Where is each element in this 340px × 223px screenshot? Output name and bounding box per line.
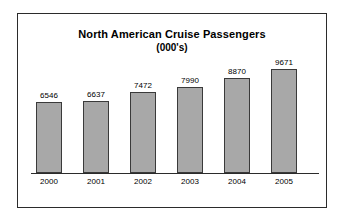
plot-area: 6546 2000 6637 2001 7472 2002 7990 2003 … <box>18 14 326 207</box>
bar-category-label: 2005 <box>275 177 293 186</box>
bar-value-label: 6637 <box>87 90 105 99</box>
bar-category-label: 2001 <box>87 177 105 186</box>
bar-value-label: 7990 <box>181 76 199 85</box>
bar-value-label: 8870 <box>228 67 246 76</box>
bar-category-label: 2004 <box>228 177 246 186</box>
bar-rect[interactable] <box>177 87 203 173</box>
bar-rect[interactable] <box>271 69 297 173</box>
bar-group[interactable]: 9671 2005 <box>271 69 297 173</box>
bar-rect[interactable] <box>83 101 109 173</box>
x-axis-line <box>31 173 319 175</box>
bar-value-label: 6546 <box>40 91 58 100</box>
bar-category-label: 2000 <box>40 177 58 186</box>
bar-group[interactable]: 6637 2001 <box>83 101 109 173</box>
bar-group[interactable]: 6546 2000 <box>36 102 62 173</box>
bar-group[interactable]: 7472 2002 <box>130 92 156 173</box>
bar-category-label: 2002 <box>134 177 152 186</box>
bar-value-label: 7472 <box>134 81 152 90</box>
bar-category-label: 2003 <box>181 177 199 186</box>
bar-group[interactable]: 8870 2004 <box>224 78 250 173</box>
bar-group[interactable]: 7990 2003 <box>177 87 203 173</box>
bar-rect[interactable] <box>224 78 250 173</box>
bar-value-label: 9671 <box>275 58 293 67</box>
bar-rect[interactable] <box>36 102 62 173</box>
bar-rect[interactable] <box>130 92 156 173</box>
chart-frame: North American Cruise Passengers (000's)… <box>17 13 327 208</box>
